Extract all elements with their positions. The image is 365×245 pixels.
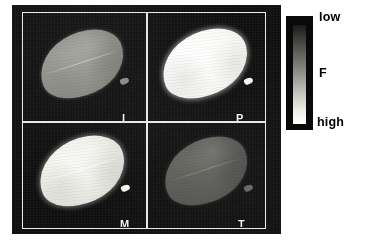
leaf-petiole-t	[243, 184, 254, 193]
colorbar-label-high: high	[317, 116, 344, 129]
leaf-image-m	[28, 123, 136, 218]
panel-label-t: T	[238, 219, 245, 227]
leaf-image-i	[29, 18, 135, 110]
leaf-petiole-i	[119, 77, 130, 86]
leaf-image-p	[151, 16, 259, 110]
leaf-image-t	[153, 125, 259, 217]
figure-canvas: I P M T low F high	[0, 0, 365, 245]
colorbar-label-f: F	[319, 67, 327, 80]
panel-m: M	[24, 123, 145, 227]
panel-t: T	[148, 123, 265, 227]
colorbar-label-low: low	[319, 11, 340, 24]
panel-label-p: P	[236, 113, 244, 121]
panel-label-m: M	[120, 219, 130, 227]
colorbar-gradient	[293, 25, 306, 124]
panel-p: P	[148, 14, 265, 121]
panel-i: I	[24, 14, 145, 121]
leaf-petiole-m	[120, 184, 131, 193]
panel-label-i: I	[122, 113, 126, 121]
leaf-petiole-p	[243, 77, 254, 86]
